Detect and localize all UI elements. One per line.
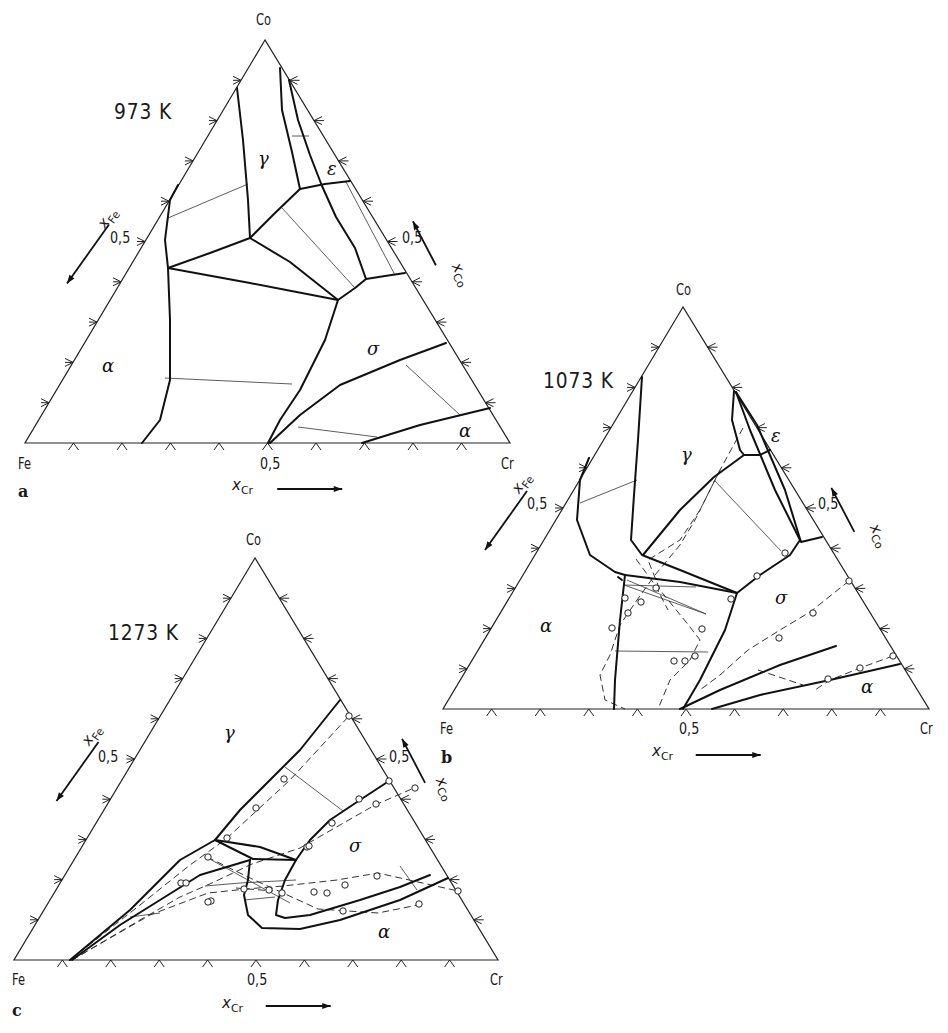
panel-label-b: b [441,750,452,766]
tie-line [624,585,706,614]
axis-sub: Cr [661,750,673,763]
phase-boundary [276,860,430,918]
tick-mark [408,443,418,450]
phase-boundary [631,377,737,593]
phase-label-alpha: α [540,615,552,636]
data-point [682,658,688,664]
data-point [776,635,782,641]
tick-mark [778,709,788,716]
tie-line [298,427,377,437]
data-point [416,901,422,907]
phase-boundary [168,238,250,268]
phase-boundary [736,392,800,540]
vertex-co-a: Co [256,13,271,28]
phase-boundary [268,300,338,443]
tick-mark [360,443,370,450]
tick-half-bottom-a: 0,5 [260,457,280,472]
tick-mark [251,960,261,967]
phase-boundary [165,185,178,268]
calculated-boundary [72,788,414,960]
data-point [279,890,285,896]
tick-mark [396,960,406,967]
tick-mark [263,443,273,450]
phase-boundary [215,840,296,860]
tick-half-right-c: 0,5 [389,750,409,765]
phase-boundary [737,540,800,593]
tie-line [624,585,696,587]
panel-label-a: a [18,484,28,500]
data-point [340,908,346,914]
tick-mark [203,960,213,967]
phase-label-sigma: σ [367,338,380,359]
data-point [653,585,659,591]
phase-boundary [237,88,250,238]
data-point [183,880,189,886]
ternary-figure: γεσααγεσααγσα [0,0,948,1033]
vertex-fe-b: Fe [440,722,453,737]
phase-boundary [338,273,405,300]
tie-line [165,378,292,384]
tie-line [580,480,637,503]
phase-boundary [289,80,366,279]
data-point [266,887,272,893]
data-point [846,578,852,584]
phase-boundary [168,268,338,300]
phase-boundary [250,189,300,238]
calculated-boundary [600,428,743,709]
phase-label-gamma: γ [258,148,269,169]
axis-label-xcr-a: xCr [232,478,253,496]
data-point [782,550,788,556]
tick-mark [57,960,67,967]
tick-mark [348,960,358,967]
phase-label-gamma: γ [224,722,235,743]
data-point [857,665,863,671]
phase-label-alpha: α [861,676,873,697]
phase-boundary [643,455,744,555]
data-point [241,886,247,892]
axis-sub: Cr [241,484,253,497]
tick-mark [106,960,116,967]
arrow-icon-xcr-head [334,486,342,492]
tie-line [244,897,275,900]
data-point [373,801,379,807]
axis-label-xcr-b: xCr [652,744,673,762]
tick-mark [457,443,467,450]
temperature-b: 1073 K [543,370,614,392]
tick-half-left-a: 0,5 [110,231,130,246]
phase-boundary [683,593,737,709]
temperature-c: 1273 K [108,622,179,644]
tick-half-right-a: 0,5 [402,231,422,246]
data-point [281,776,287,782]
phase-boundary [744,450,770,455]
vertex-cr-c: Cr [490,973,503,988]
tick-mark [117,443,127,450]
vertex-fe-a: Fe [18,457,31,472]
tie-line [406,365,460,415]
tick-mark [730,709,740,716]
data-point [699,626,705,632]
data-point [306,843,312,849]
phase-boundary [680,646,836,709]
data-point [412,785,418,791]
tie-line [715,481,781,551]
phase-label-gamma: γ [681,444,692,465]
phase-boundary [625,575,737,593]
data-point [810,610,816,616]
data-point [342,882,348,888]
phase-label-alpha: α [102,355,114,376]
panel-label-c: c [12,1003,22,1019]
phase-boundary [300,181,350,189]
phase-label-sigma: σ [775,587,788,608]
data-point [386,778,392,784]
vertex-fe-c: Fe [12,973,25,988]
data-point [638,599,644,605]
arrow-icon-xfe [57,742,99,801]
tick-mark [827,709,837,716]
data-point [374,873,380,879]
phase-label-sigma: σ [349,835,362,856]
ternary-diagram-c: γσα [14,558,498,1009]
phase-boundary [577,458,625,575]
phase-label-epsilon: ε [771,425,781,446]
data-point [224,835,230,841]
phase-label-epsilon: ε [327,158,337,179]
